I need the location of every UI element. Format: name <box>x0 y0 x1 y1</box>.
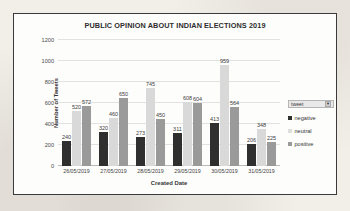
y-axis-tick-label: 200 <box>45 142 54 148</box>
bar-rect <box>136 137 145 166</box>
bar-negative[interactable]: 311 <box>173 40 182 166</box>
bar-positive[interactable]: 564 <box>230 40 239 166</box>
plot-area: 020040060080010001200 240520572320460650… <box>58 40 280 166</box>
bar-positive[interactable]: 225 <box>267 40 276 166</box>
bar-value-label: 650 <box>119 91 128 97</box>
bar-value-label: 273 <box>136 130 145 136</box>
bar-positive[interactable]: 604 <box>193 40 202 166</box>
chevron-down-icon[interactable]: ▼ <box>325 101 331 107</box>
bar-rect <box>146 88 155 166</box>
bar-value-label: 520 <box>72 104 81 110</box>
x-axis-tick-label: 27/05/2019 <box>95 168 132 174</box>
y-axis-tick-label: 0 <box>51 163 54 169</box>
bar-rect <box>267 142 276 166</box>
bar-rect <box>220 65 229 166</box>
bar-neutral[interactable]: 460 <box>109 40 118 166</box>
legend-swatch-icon <box>288 142 292 146</box>
bar-value-label: 320 <box>99 125 108 131</box>
bar-groups: 2405205723204606502737454503116086044139… <box>58 40 280 166</box>
bar-negative[interactable]: 273 <box>136 40 145 166</box>
bar-value-label: 572 <box>82 99 91 105</box>
bar-rect <box>230 107 239 166</box>
bar-value-label: 604 <box>193 96 202 102</box>
chart-title: PUBLIC OPINION ABOUT INDIAN ELECTIONS 20… <box>14 21 336 30</box>
bar-group: 240520572 <box>58 40 95 166</box>
x-axis-title: Created Date <box>58 180 280 186</box>
x-axis-ticks: 26/05/201927/05/201928/05/201929/05/2019… <box>58 168 280 174</box>
bar-value-label: 240 <box>62 134 71 140</box>
bar-rect <box>109 118 118 166</box>
y-axis-tick-label: 600 <box>45 100 54 106</box>
bar-neutral[interactable]: 959 <box>220 40 229 166</box>
legend-filter-label: tweet <box>291 101 303 107</box>
y-axis-tick-label: 400 <box>45 121 54 127</box>
bar-value-label: 460 <box>109 111 118 117</box>
bar-neutral[interactable]: 348 <box>257 40 266 166</box>
bar-value-label: 413 <box>210 116 219 122</box>
bar-value-label: 311 <box>173 126 182 132</box>
bar-rect <box>82 106 91 166</box>
bar-rect <box>72 111 81 166</box>
legend-item-negative[interactable]: negative <box>288 115 334 121</box>
x-axis-tick-label: 29/05/2019 <box>169 168 206 174</box>
bar-rect <box>257 129 266 166</box>
bar-negative[interactable]: 240 <box>62 40 71 166</box>
bar-group: 320460650 <box>95 40 132 166</box>
bar-positive[interactable]: 572 <box>82 40 91 166</box>
bar-value-label: 348 <box>257 122 266 128</box>
scanned-page-background: PUBLIC OPINION ABOUT INDIAN ELECTIONS 20… <box>0 0 350 211</box>
y-axis-tick-label: 800 <box>45 79 54 85</box>
legend-item-label: positive <box>295 141 314 147</box>
x-axis-tick-label: 30/05/2019 <box>206 168 243 174</box>
bar-group: 311608604 <box>169 40 206 166</box>
bar-value-label: 564 <box>230 100 239 106</box>
bar-rect <box>193 103 202 166</box>
bar-value-label: 745 <box>146 81 155 87</box>
bar-value-label: 608 <box>183 95 192 101</box>
bar-rect <box>183 102 192 166</box>
legend-swatch-icon <box>288 116 292 120</box>
bar-neutral[interactable]: 520 <box>72 40 81 166</box>
bar-rect <box>173 133 182 166</box>
legend-item-neutral[interactable]: neutral <box>288 128 334 134</box>
bar-rect <box>99 132 108 166</box>
bar-rect <box>62 141 71 166</box>
bar-positive[interactable]: 450 <box>156 40 165 166</box>
legend-item-label: neutral <box>295 128 312 134</box>
bar-value-label: 959 <box>220 58 229 64</box>
x-axis-tick-label: 31/05/2019 <box>243 168 280 174</box>
bar-group: 206348225 <box>243 40 280 166</box>
x-axis-tick-label: 26/05/2019 <box>58 168 95 174</box>
bar-rect <box>156 119 165 166</box>
bar-value-label: 225 <box>267 135 276 141</box>
bar-group: 273745450 <box>132 40 169 166</box>
legend-items: negativeneutralpositive <box>288 115 334 147</box>
bar-rect <box>247 144 256 166</box>
chart-legend: tweet ▼ negativeneutralpositive <box>288 100 334 147</box>
x-axis-tick-label: 28/05/2019 <box>132 168 169 174</box>
legend-item-positive[interactable]: positive <box>288 141 334 147</box>
bar-negative[interactable]: 206 <box>247 40 256 166</box>
bar-neutral[interactable]: 608 <box>183 40 192 166</box>
bar-group: 413959564 <box>206 40 243 166</box>
legend-swatch-icon <box>288 129 292 133</box>
bar-neutral[interactable]: 745 <box>146 40 155 166</box>
chart-frame: PUBLIC OPINION ABOUT INDIAN ELECTIONS 20… <box>13 13 337 195</box>
bar-negative[interactable]: 320 <box>99 40 108 166</box>
bar-value-label: 206 <box>247 137 256 143</box>
bar-negative[interactable]: 413 <box>210 40 219 166</box>
bar-rect <box>119 98 128 166</box>
bar-value-label: 450 <box>156 112 165 118</box>
y-axis-tick-label: 1000 <box>42 58 54 64</box>
legend-filter-dropdown[interactable]: tweet ▼ <box>288 100 334 108</box>
legend-item-label: negative <box>295 115 316 121</box>
bar-rect <box>210 123 219 166</box>
bar-positive[interactable]: 650 <box>119 40 128 166</box>
y-axis-tick-label: 1200 <box>42 37 54 43</box>
